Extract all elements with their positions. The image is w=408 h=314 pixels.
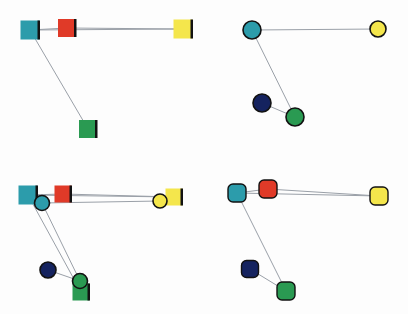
node-yellow-square	[166, 189, 183, 206]
graph-svg	[0, 0, 408, 314]
node-red-rounded-square	[259, 180, 277, 198]
node-shadow	[70, 186, 73, 203]
node-yellow-rounded-square	[370, 187, 388, 205]
node-navy-circle	[40, 262, 56, 278]
node-navy-circle	[253, 94, 271, 112]
node-yellow-circle	[153, 194, 167, 208]
node-green-circle	[73, 274, 88, 289]
node-yellow-circle	[370, 21, 386, 37]
nodes	[21, 19, 194, 138]
node-green-square	[79, 120, 97, 138]
nodes	[19, 186, 184, 301]
panel-bottom-right	[228, 180, 388, 300]
node-teal-rounded-square	[228, 184, 246, 202]
edges	[30, 28, 183, 129]
edge-line	[252, 29, 378, 30]
panel-bottom-left	[19, 186, 184, 301]
node-teal-circle	[35, 196, 50, 211]
node-green-circle	[286, 108, 304, 126]
nodes	[243, 21, 386, 126]
node-shadow	[181, 189, 184, 206]
node-shadow	[191, 20, 194, 39]
node-shadow	[38, 21, 41, 40]
node-red-square	[55, 186, 72, 203]
node-green-rounded-square	[277, 282, 295, 300]
node-shadow	[74, 19, 77, 37]
node-shadow	[95, 120, 98, 138]
node-teal-circle	[243, 21, 261, 39]
node-red-square	[58, 19, 76, 37]
edge-line	[30, 30, 88, 129]
nodes	[228, 180, 388, 300]
panel-top-right	[243, 21, 386, 126]
node-yellow-square	[174, 20, 193, 39]
edges	[237, 189, 379, 291]
node-navy-rounded-square	[242, 261, 259, 278]
panel-top-left	[21, 19, 194, 138]
graph-canvas	[0, 0, 408, 314]
node-teal-square	[21, 21, 40, 40]
node-shadow	[88, 284, 91, 301]
